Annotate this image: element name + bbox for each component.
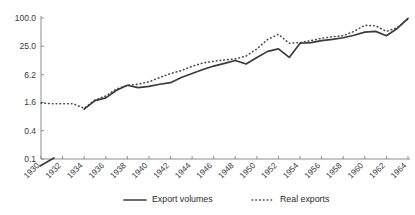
legend-item-label: Real exports [280, 194, 330, 204]
x-tick-label: 1964 [389, 161, 409, 181]
y-tick-label: 100.0 [15, 13, 37, 23]
x-tick-label: 1956 [303, 161, 323, 181]
x-tick-label: 1940 [130, 161, 150, 181]
x-tick-label: 1948 [216, 161, 236, 181]
x-tick-label: 1932 [44, 161, 64, 181]
chart-container: 100.025.06.21.60.40.1 193019321934193619… [0, 0, 415, 215]
chart-legend: Export volumesReal exports [124, 194, 330, 204]
y-tick-label: 0.4 [24, 126, 36, 136]
y-tick-label: 1.6 [24, 97, 36, 107]
x-tick-label: 1934 [65, 161, 85, 181]
log-line-chart: 100.025.06.21.60.40.1 193019321934193619… [0, 0, 415, 215]
y-axis-tick-group: 100.025.06.21.60.40.1 [15, 13, 44, 164]
x-tick-label: 1942 [152, 161, 172, 181]
x-tick-label: 1944 [173, 161, 193, 181]
y-tick-label: 6.2 [24, 70, 36, 80]
x-tick-label: 1954 [281, 161, 301, 181]
x-tick-label: 1950 [238, 161, 258, 181]
y-tick-label: 25.0 [19, 41, 36, 51]
x-tick-label: 1936 [87, 161, 107, 181]
x-tick-label: 1960 [346, 161, 366, 181]
series-line-export-volumes [84, 18, 408, 109]
x-tick-label: 1952 [260, 161, 280, 181]
x-tick-label: 1962 [368, 161, 388, 181]
x-axis-tick-group: 1930193219341936193819401942194419461948… [22, 156, 409, 180]
x-tick-label: 1946 [195, 161, 215, 181]
legend-item-label: Export volumes [152, 194, 213, 204]
x-tick-label: 1938 [109, 161, 129, 181]
x-tick-label: 1958 [324, 161, 344, 181]
